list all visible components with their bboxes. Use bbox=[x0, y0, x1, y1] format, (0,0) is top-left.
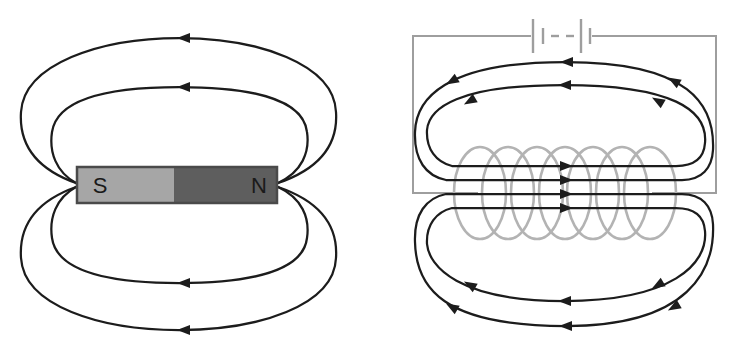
field-line-loop-top-outer bbox=[21, 38, 336, 183]
magnetism-svg: S N bbox=[0, 0, 732, 347]
battery-cells-icon bbox=[533, 19, 590, 53]
magnetism-figure: S N bbox=[0, 0, 732, 347]
south-pole bbox=[77, 167, 174, 203]
electromagnet-diagram bbox=[413, 19, 716, 331]
arrowhead-icon bbox=[443, 74, 459, 89]
arrowhead-icon bbox=[558, 296, 571, 306]
field-line-loop-bottom-outer bbox=[21, 187, 336, 330]
bar-magnet-diagram: S N bbox=[21, 33, 336, 335]
bar-magnet: S N bbox=[77, 167, 277, 203]
wire-right bbox=[592, 36, 716, 193]
arrowhead-icon bbox=[177, 82, 190, 92]
north-pole-label: N bbox=[251, 173, 267, 198]
arrowhead-icon bbox=[665, 73, 681, 88]
arrowhead-icon bbox=[177, 33, 190, 43]
arrowhead-icon bbox=[559, 321, 572, 331]
arrowhead-icon bbox=[560, 57, 573, 67]
field-line-loop-bottom-outer bbox=[415, 194, 713, 326]
south-pole-label: S bbox=[93, 173, 108, 198]
arrowhead-icon bbox=[177, 278, 190, 288]
arrowhead-icon bbox=[558, 80, 571, 90]
arrowhead-icon bbox=[177, 325, 190, 335]
